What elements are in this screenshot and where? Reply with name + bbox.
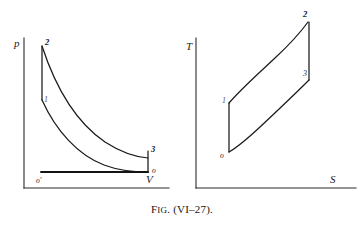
ts-x-axis-label: S bbox=[330, 174, 336, 185]
pv-point-label-2: 2 bbox=[45, 38, 49, 47]
pv-curve-1-o bbox=[42, 100, 148, 172]
pv-x-axis-label: V bbox=[146, 174, 153, 185]
pv-diagram-group bbox=[24, 38, 169, 188]
ts-point-label-2: 2 bbox=[303, 10, 307, 19]
pv-point-label-o-prime: o' bbox=[36, 177, 41, 185]
ts-curve-1-2 bbox=[229, 22, 308, 103]
ts-y-axis-label: T bbox=[186, 41, 192, 52]
figure-caption: FIG. (VI–27). bbox=[0, 203, 364, 215]
figure-container: p V 2 1 3 o o' T S 2 1 3 o FIG. (VI–27). bbox=[0, 0, 364, 227]
ts-point-label-1: 1 bbox=[222, 97, 226, 105]
ts-point-label-o: o bbox=[220, 152, 224, 160]
caption-rest: . (VI–27). bbox=[167, 203, 213, 215]
ts-point-label-3: 3 bbox=[303, 70, 307, 78]
pv-curve-2-3 bbox=[42, 46, 148, 158]
caption-smallcaps: IG bbox=[157, 205, 167, 215]
pv-point-label-o: o bbox=[152, 167, 156, 175]
figure-drawing bbox=[0, 0, 364, 227]
pv-y-axis-label: p bbox=[14, 38, 20, 49]
ts-diagram-group bbox=[196, 22, 356, 188]
pv-point-label-1: 1 bbox=[44, 96, 48, 104]
pv-point-label-3: 3 bbox=[151, 145, 155, 154]
